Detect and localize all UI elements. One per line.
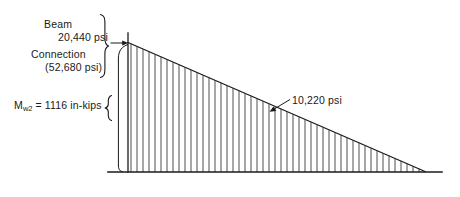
moment-value: 1116 in-kips [45,99,102,111]
beam-label-value: 20,440 psi [44,31,108,44]
moment-subscript: w2 [23,104,33,113]
beam-label-name: Beam [44,18,72,30]
beam-stress-label: Beam 20,440 psi [44,18,108,44]
connection-label-name: Connection [31,48,86,60]
moment-equals: = [33,99,45,111]
lower-brace [105,96,111,121]
beam-stress-arrow [111,41,129,46]
stress-point-label: 10,220 psi [292,94,342,107]
connection-label-value: (52,680 psi) [31,61,102,74]
connection-leader-curve [118,45,128,172]
connection-stress-label: Connection (52,680 psi) [31,48,102,74]
stress-distribution-figure: Beam 20,440 psi Connection (52,680 psi) … [0,0,460,197]
moment-label: Mw2=1116 in-kips [14,99,102,115]
moment-symbol: M [14,99,23,111]
